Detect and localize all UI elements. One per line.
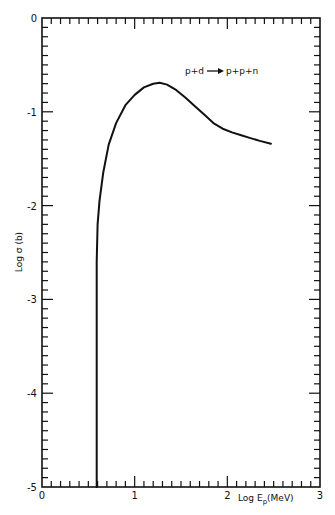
x-tick-label: 3 (317, 490, 323, 501)
y-tick-label: 0 (31, 13, 37, 24)
x-tick-label: 1 (131, 490, 137, 501)
annotation-right: p+p+n (226, 66, 258, 76)
x-axis-label-unit: (MeV) (267, 493, 293, 503)
y-tick-label: -5 (27, 482, 37, 493)
y-tick-label: -2 (27, 201, 37, 212)
x-axis-label: Log Ep(MeV) (238, 493, 294, 506)
y-tick-label: -1 (27, 107, 37, 118)
annotation-left: p+d (185, 66, 204, 76)
x-axis-label-main: Log E (238, 493, 263, 503)
x-tick-label: 2 (224, 490, 230, 501)
plot-frame (42, 18, 320, 487)
y-axis-label: Log σ (b) (14, 232, 24, 272)
y-tick-label: -4 (27, 388, 37, 399)
axis-ticks (42, 18, 320, 487)
arrow-head-icon (218, 68, 224, 74)
cross-section-chart: 01230-1-2-3-4-5 p+d p+p+n Log Ep(MeV) Lo… (0, 0, 335, 515)
cross-section-curve (97, 83, 271, 487)
y-tick-label: -3 (27, 294, 37, 305)
tick-labels: 01230-1-2-3-4-5 (27, 13, 323, 501)
svg-text:Log Ep(MeV): Log Ep(MeV) (238, 493, 294, 506)
x-tick-label: 0 (39, 490, 45, 501)
reaction-annotation: p+d p+p+n (185, 66, 258, 76)
